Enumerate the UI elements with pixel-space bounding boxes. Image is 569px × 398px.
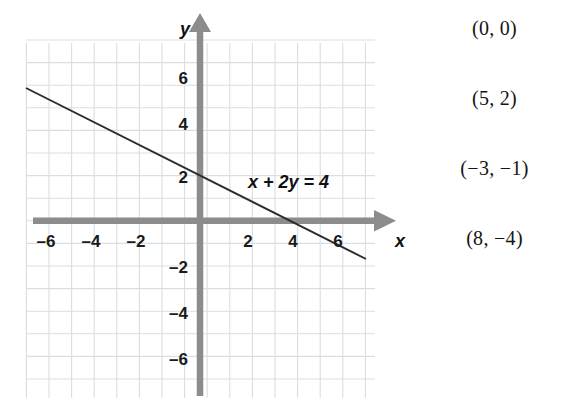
y-tick-label-neg4: –4 bbox=[169, 304, 188, 323]
answer-choice[interactable]: (−3, −1) bbox=[420, 158, 569, 178]
graph-background bbox=[0, 0, 420, 398]
x-tick-label-2: 2 bbox=[243, 232, 252, 251]
coordinate-graph: –6 –4 –2 2 4 6 6 4 2 –2 –4 –6 y x x + 2y… bbox=[0, 0, 420, 398]
x-tick-label-neg2: –2 bbox=[127, 232, 146, 251]
graph-svg: –6 –4 –2 2 4 6 6 4 2 –2 –4 –6 y x x + 2y… bbox=[0, 0, 420, 398]
answer-choice[interactable]: (8, −4) bbox=[420, 228, 569, 248]
answer-choices-list: (0, 0) (5, 2) (−3, −1) (8, −4) bbox=[420, 0, 569, 398]
y-tick-label-2: 2 bbox=[179, 168, 188, 187]
y-tick-label-4: 4 bbox=[179, 115, 189, 134]
x-tick-label-neg4: –4 bbox=[82, 232, 101, 251]
y-tick-label-neg2: –2 bbox=[169, 258, 188, 277]
y-axis-label: y bbox=[179, 19, 191, 39]
x-tick-label-6: 6 bbox=[333, 232, 342, 251]
y-tick-label-neg6: –6 bbox=[169, 350, 188, 369]
answer-choice[interactable]: (0, 0) bbox=[420, 18, 569, 38]
equation-annotation: x + 2y = 4 bbox=[247, 172, 329, 192]
y-tick-label-6: 6 bbox=[179, 69, 188, 88]
figure-root: –6 –4 –2 2 4 6 6 4 2 –2 –4 –6 y x x + 2y… bbox=[0, 0, 569, 398]
x-axis-label: x bbox=[394, 231, 406, 251]
x-tick-label-neg6: –6 bbox=[37, 232, 56, 251]
answer-choice[interactable]: (5, 2) bbox=[420, 88, 569, 108]
x-tick-label-4: 4 bbox=[288, 232, 298, 251]
